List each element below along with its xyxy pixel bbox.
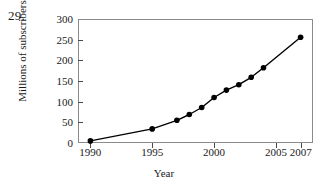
- x-tick-label: 1990: [79, 146, 101, 158]
- x-tick-label: 2000: [203, 146, 225, 158]
- x-axis-label: Year: [0, 167, 328, 179]
- x-tick-label: 2005: [265, 146, 287, 158]
- y-tick-label: 250: [47, 34, 73, 46]
- x-tick-label: 1995: [141, 146, 163, 158]
- y-tick-label: 50: [47, 116, 73, 128]
- y-tick-mark: [78, 40, 83, 41]
- figure-root: 29. Millions of subscribers 050100150200…: [0, 0, 328, 191]
- y-tick-label: 150: [47, 75, 73, 87]
- plot-area: [78, 19, 313, 143]
- y-tick-mark: [78, 102, 83, 103]
- y-tick-label: 200: [47, 54, 73, 66]
- y-tick-label: 300: [47, 13, 73, 25]
- y-tick-mark: [78, 60, 83, 61]
- y-axis-label: Millions of subscribers: [16, 0, 28, 106]
- y-tick-label: 0: [47, 137, 73, 149]
- y-tick-mark: [78, 122, 83, 123]
- x-tick-label: 2007: [290, 146, 312, 158]
- y-tick-mark: [78, 81, 83, 82]
- y-tick-label: 100: [47, 96, 73, 108]
